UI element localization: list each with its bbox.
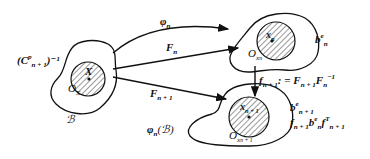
current-n-point-label: xn	[266, 30, 275, 40]
f-n1-definition-label: fn + 1: = Fn + 1Fn−1	[259, 75, 335, 86]
current-n1-strain-label: ben + 1	[290, 102, 314, 113]
diagram-canvas: (Cpn + 1)⁻¹ X OX ℬ φn Fn Fn + 1 fn + 1: …	[0, 0, 370, 159]
reference-body-label: ℬ	[66, 114, 75, 125]
push-forward-label: fn + 1benfTn + 1	[290, 117, 345, 128]
phi-n-label: φn	[160, 16, 170, 27]
current-n1-point-label: xn + 1	[240, 102, 259, 112]
current-n1-point	[247, 115, 250, 118]
current-n-strain-label: ben	[315, 34, 328, 45]
current-n1-body-label: φn(ℬ)	[147, 124, 174, 135]
current-n1-origin-label: Oxn + 1	[229, 130, 253, 141]
reference-point	[87, 77, 90, 80]
reference-origin-label: OX	[68, 83, 80, 94]
inverse-plastic-label: (Cpn + 1)⁻¹	[17, 55, 60, 66]
F-n1-label: Fn + 1	[150, 88, 173, 99]
reference-point-label: X	[85, 66, 92, 77]
current-n-hatched-region	[257, 22, 295, 60]
current-n-origin-label: Oxn	[248, 48, 262, 59]
F-n-label: Fn	[166, 42, 177, 53]
